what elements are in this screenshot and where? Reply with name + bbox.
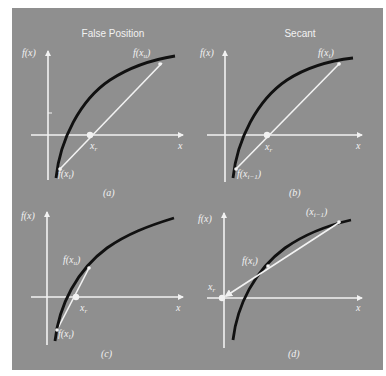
point-xi-b bbox=[337, 62, 341, 66]
x-axis-label-d: x bbox=[355, 302, 361, 313]
x-axis-label-c: x bbox=[175, 302, 181, 313]
root-point-a bbox=[87, 132, 93, 138]
y-axis-label-c: f(x) bbox=[21, 210, 36, 222]
panel-a-title: False Position bbox=[82, 28, 145, 39]
upper-point-a bbox=[158, 62, 162, 66]
panel-b-title: Secant bbox=[284, 28, 315, 39]
upper-point-label-a: f(xu) bbox=[133, 47, 151, 60]
y-axis-label-d: f(x) bbox=[198, 213, 213, 225]
point-xi-minus-1-label-b: f(xi−1) bbox=[237, 168, 262, 181]
root-label-b: xr bbox=[264, 141, 272, 154]
root-label-a: xr bbox=[89, 140, 97, 153]
caption-c: (c) bbox=[101, 348, 113, 360]
function-curve-a bbox=[56, 56, 175, 178]
y-axis-label-b: f(x) bbox=[200, 47, 215, 59]
root-label-d: xr bbox=[207, 281, 215, 294]
x-axis-label-b: x bbox=[355, 140, 361, 151]
point-xi-label-d: f(xi) bbox=[242, 255, 259, 268]
x-axis-label-a: x bbox=[177, 140, 183, 151]
root-point-c bbox=[73, 294, 79, 300]
root-finding-diagram: False Position f(x) x xr f(xu) f(xl) (a)… bbox=[0, 0, 386, 376]
point-xi-minus-1-d bbox=[337, 220, 341, 224]
caption-a: (a) bbox=[103, 187, 115, 199]
point-xi-minus-1-label-d: (xi−1) bbox=[306, 206, 328, 219]
caption-d: (d) bbox=[288, 348, 300, 360]
function-curve-b bbox=[233, 58, 353, 178]
root-label-c: xr bbox=[79, 302, 87, 315]
caption-b: (b) bbox=[289, 187, 301, 199]
panel-b: Secant f(x) x xr f(xi) f(xi−1) (b) bbox=[200, 28, 362, 199]
panel-c: f(x) x xr f(xu) f(xl) (c) bbox=[21, 210, 183, 360]
lower-point-label-a: f(xl) bbox=[58, 168, 75, 181]
false-position-line-c bbox=[57, 268, 89, 330]
upper-point-label-c: f(xu) bbox=[63, 254, 81, 267]
function-curve-c bbox=[55, 218, 174, 341]
root-point-b bbox=[264, 132, 270, 138]
panel-a: False Position f(x) x xr f(xu) f(xl) (a) bbox=[22, 28, 183, 199]
y-axis-label-a: f(x) bbox=[22, 47, 37, 59]
root-point-d bbox=[219, 295, 225, 301]
panel-d: f(x) x xr (xi−1) f(xi) (d) bbox=[198, 206, 362, 360]
point-xi-label-b: f(xi) bbox=[318, 47, 335, 60]
lower-point-label-c: f(xl) bbox=[58, 328, 75, 341]
point-xi-d bbox=[266, 264, 270, 268]
upper-point-c bbox=[87, 266, 91, 270]
